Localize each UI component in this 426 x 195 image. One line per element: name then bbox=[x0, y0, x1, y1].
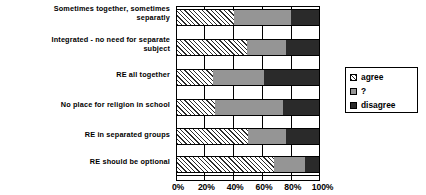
bar-segment-disagree bbox=[305, 156, 319, 173]
bar-segment-disagree bbox=[291, 9, 319, 26]
x-tick-label-0: 0% bbox=[172, 182, 184, 192]
gridline-40 bbox=[233, 7, 234, 175]
category-label-re-all-together: RE all together bbox=[0, 71, 170, 80]
bar-segment-question bbox=[274, 156, 305, 173]
x-tick-40 bbox=[233, 175, 234, 181]
bar-row bbox=[177, 39, 319, 56]
hatch-swatch-icon bbox=[350, 74, 357, 81]
bar-segment-agree bbox=[177, 39, 247, 56]
bar-row bbox=[177, 69, 319, 86]
category-label-no-place-for-religion: No place for religion in school bbox=[0, 101, 170, 110]
category-label-sometimes-together: Sometimes together, sometimes separatly bbox=[0, 5, 170, 22]
bar-row bbox=[177, 9, 319, 26]
category-label-line: subject bbox=[0, 45, 170, 54]
gridline-20 bbox=[204, 7, 205, 175]
legend: agree ? disagree bbox=[345, 67, 418, 113]
category-label-line: separatly bbox=[0, 14, 170, 23]
bar-segment-disagree bbox=[286, 39, 319, 56]
bar-segment-disagree bbox=[264, 69, 319, 86]
legend-label-disagree: disagree bbox=[361, 101, 395, 110]
gridline-80 bbox=[291, 7, 292, 175]
bar-segment-agree bbox=[177, 99, 215, 116]
x-tick-label-60: 60% bbox=[256, 182, 273, 192]
legend-label-question: ? bbox=[361, 87, 366, 96]
category-label-re-separated-groups: RE in separated groups bbox=[0, 131, 170, 140]
bar-segment-agree bbox=[177, 128, 248, 145]
bar-row bbox=[177, 128, 319, 145]
bar-segment-agree bbox=[177, 69, 213, 86]
x-tick-label-20: 20% bbox=[198, 182, 215, 192]
x-tick-80 bbox=[291, 175, 292, 181]
bar-segment-agree bbox=[177, 156, 274, 173]
x-tick-0 bbox=[176, 175, 177, 181]
category-label-integrated: Integrated - no need for separate subjec… bbox=[0, 36, 170, 53]
bar-segment-question bbox=[215, 99, 283, 116]
legend-item-agree: agree bbox=[350, 72, 383, 83]
plot-area bbox=[176, 6, 320, 176]
bar-row bbox=[177, 156, 319, 173]
bar-segment-question bbox=[234, 9, 291, 26]
bar-segment-question bbox=[248, 128, 286, 145]
x-axis-line bbox=[176, 180, 319, 181]
stacked-bar-chart: Sometimes together, sometimes separatly … bbox=[0, 0, 426, 195]
x-tick-20 bbox=[204, 175, 205, 181]
legend-item-question: ? bbox=[350, 86, 366, 97]
gray-swatch-icon bbox=[350, 88, 357, 95]
x-tick-60 bbox=[262, 175, 263, 181]
black-swatch-icon bbox=[350, 102, 357, 109]
category-axis-labels: Sometimes together, sometimes separatly … bbox=[0, 0, 174, 180]
gridline-60 bbox=[262, 7, 263, 175]
legend-label-agree: agree bbox=[361, 73, 383, 82]
bar-segment-question bbox=[213, 69, 264, 86]
x-tick-100 bbox=[319, 175, 320, 181]
x-tick-label-40: 40% bbox=[227, 182, 244, 192]
bar-segment-disagree bbox=[286, 128, 319, 145]
bar-segment-disagree bbox=[283, 99, 319, 116]
bar-segment-question bbox=[247, 39, 287, 56]
legend-item-disagree: disagree bbox=[350, 100, 395, 111]
category-label-re-optional: RE should be optional bbox=[0, 158, 170, 167]
bar-row bbox=[177, 99, 319, 116]
x-tick-label-80: 80% bbox=[284, 182, 301, 192]
bar-segment-agree bbox=[177, 9, 234, 26]
x-tick-label-100: 100% bbox=[312, 182, 334, 192]
